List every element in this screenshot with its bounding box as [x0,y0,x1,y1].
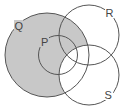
label-s: S [105,89,112,101]
label-r: R [106,7,114,19]
label-q: Q [15,20,24,32]
label-p: P [41,36,48,48]
venn-diagram: Q P R S [0,0,125,106]
